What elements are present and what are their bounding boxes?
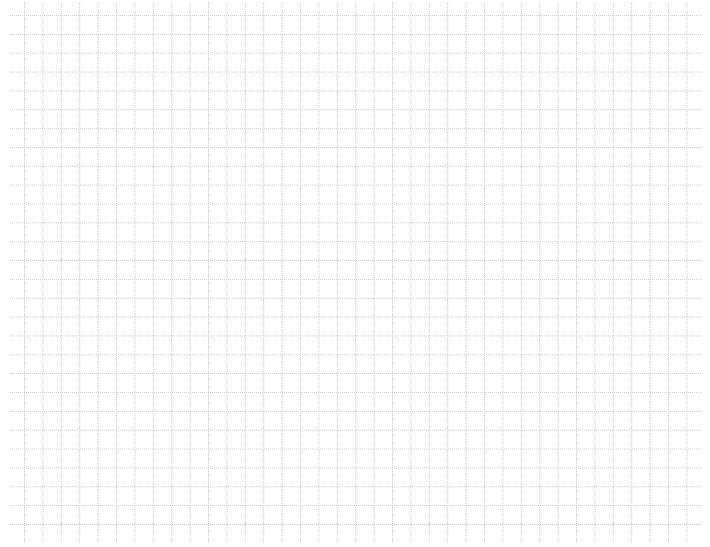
dotted-grid: [0, 0, 710, 547]
